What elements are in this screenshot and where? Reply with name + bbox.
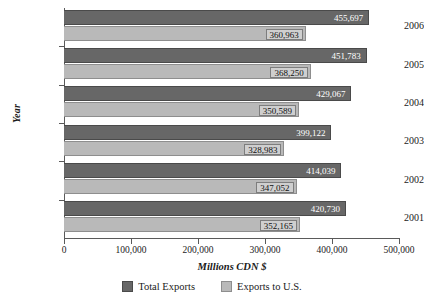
bar-total-exports[interactable]: 399,122 (64, 125, 331, 140)
bar-value-label: 399,122 (293, 128, 328, 139)
bar-total-exports[interactable]: 455,697 (64, 10, 369, 25)
bar-exports-to-us[interactable]: 368,250 (64, 64, 311, 79)
bar-value-label: 328,983 (244, 144, 281, 155)
y-axis-category-label: 2002 (370, 174, 424, 185)
bar-value-label: 429,067 (313, 89, 348, 100)
bar-value-label: 451,783 (328, 51, 363, 62)
bar-exports-to-us[interactable]: 360,963 (64, 26, 306, 41)
y-axis-tick (59, 46, 65, 47)
x-axis-tick (399, 239, 400, 244)
x-axis-tick (332, 239, 333, 244)
y-axis-tick (59, 161, 65, 162)
x-axis-tick-label: 0 (62, 245, 67, 255)
export-bar-chart: Year 455,697360,963451,783368,250429,067… (0, 0, 424, 307)
bar-value-label: 368,250 (270, 67, 307, 78)
plot-area: 455,697360,963451,783368,250429,067350,5… (64, 8, 399, 238)
y-axis-category-label: 2005 (370, 59, 424, 70)
legend-item-exports-to-us: Exports to U.S. (221, 281, 302, 292)
x-axis-tick (131, 239, 132, 244)
x-axis-tick-label: 100,000 (116, 245, 147, 255)
legend-item-total-exports: Total Exports (122, 281, 195, 292)
bar-total-exports[interactable]: 414,039 (64, 163, 341, 178)
y-axis-category-label: 2001 (370, 212, 424, 223)
bar-value-label: 414,039 (303, 166, 338, 177)
bar-group: 420,730352,165 (64, 201, 399, 232)
bar-exports-to-us[interactable]: 352,165 (64, 217, 300, 232)
bar-group: 399,122328,983 (64, 125, 399, 156)
y-axis-category-label: 2003 (370, 135, 424, 146)
legend-swatch-icon (122, 281, 133, 292)
x-axis-tick (64, 239, 65, 244)
legend-item-label: Total Exports (138, 281, 195, 292)
bar-value-label: 420,730 (308, 204, 343, 215)
bar-total-exports[interactable]: 420,730 (64, 201, 346, 216)
y-axis-category-label: 2006 (370, 20, 424, 31)
bar-value-label: 350,589 (259, 105, 296, 116)
x-axis-tick-label: 500,000 (384, 245, 415, 255)
x-axis-line (64, 238, 400, 239)
legend-swatch-icon (221, 281, 232, 292)
bar-exports-to-us[interactable]: 350,589 (64, 102, 299, 117)
x-axis-tick-label: 300,000 (250, 245, 281, 255)
bar-group: 451,783368,250 (64, 48, 399, 79)
bar-value-label: 352,165 (260, 220, 297, 231)
bar-exports-to-us[interactable]: 347,052 (64, 179, 297, 194)
y-axis-category-label: 2004 (370, 97, 424, 108)
bar-group: 429,067350,589 (64, 86, 399, 117)
bar-group: 455,697360,963 (64, 10, 399, 41)
chart-legend: Total Exports Exports to U.S. (0, 281, 424, 292)
x-axis-tick (265, 239, 266, 244)
bar-value-label: 347,052 (256, 182, 293, 193)
y-axis-title: Year (11, 84, 22, 144)
bar-group: 414,039347,052 (64, 163, 399, 194)
y-axis-tick (59, 123, 65, 124)
y-axis-tick (59, 85, 65, 86)
legend-item-label: Exports to U.S. (237, 281, 302, 292)
bar-value-label: 360,963 (266, 29, 303, 40)
y-axis-tick (59, 200, 65, 201)
bar-value-label: 455,697 (331, 13, 366, 24)
bar-total-exports[interactable]: 429,067 (64, 86, 351, 101)
x-axis-tick-label: 200,000 (183, 245, 214, 255)
x-axis-tick-label: 400,000 (317, 245, 348, 255)
x-axis-tick (198, 239, 199, 244)
bar-exports-to-us[interactable]: 328,983 (64, 141, 284, 156)
x-axis-title: Millions CDN $ (64, 261, 400, 272)
bar-total-exports[interactable]: 451,783 (64, 48, 367, 63)
